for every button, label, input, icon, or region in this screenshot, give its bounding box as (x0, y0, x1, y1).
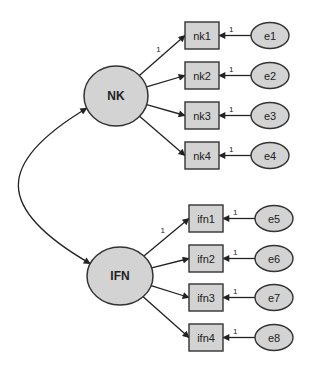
error-path-label-e2: 1 (229, 65, 234, 74)
error-term-label: e3 (264, 110, 276, 122)
error-path-label-e6: 1 (233, 248, 238, 257)
loading-arrow-nk3 (147, 105, 185, 116)
error-term-label: e4 (264, 150, 276, 162)
error-path-label-e5: 1 (233, 208, 238, 217)
error-path-label-e3: 1 (229, 105, 234, 114)
error-term-label: e6 (268, 253, 280, 265)
loading-arrow-ifn1 (144, 219, 189, 257)
observed-variable-label: nk1 (193, 30, 211, 42)
loading-arrow-nk4 (140, 116, 185, 155)
error-term-label: e8 (268, 332, 280, 344)
error-path-label-e1: 1 (229, 25, 234, 34)
observed-variable-label: nk4 (193, 150, 211, 162)
error-term-label: e7 (268, 292, 280, 304)
error-path-label-e7: 1 (233, 287, 238, 296)
nodes-layer: nk1e1nk2e2nk3e3nk4e4ifn1e5ifn2e6ifn3e7if… (84, 22, 293, 351)
observed-variable-label: nk3 (193, 110, 211, 122)
loading-arrow-nk2 (147, 76, 185, 87)
observed-variable-label: nk2 (193, 70, 211, 82)
observed-variable-label: ifn2 (197, 253, 215, 265)
error-term-label: e1 (264, 30, 276, 42)
loading-label-nk1: 1 (156, 45, 161, 54)
loading-arrow-nk1 (139, 36, 185, 76)
error-term-label: e5 (268, 213, 280, 225)
error-term-label: e2 (264, 70, 276, 82)
error-path-label-e4: 1 (229, 145, 234, 154)
loading-label-ifn1: 1 (160, 226, 165, 235)
latent-variable-label: NK (107, 89, 125, 103)
observed-variable-label: ifn3 (197, 292, 215, 304)
loading-arrow-ifn4 (143, 297, 189, 338)
observed-variable-label: ifn4 (197, 332, 215, 344)
covariance-arrow (18, 108, 90, 263)
loading-arrow-ifn3 (151, 286, 189, 298)
error-path-label-e8: 1 (233, 327, 238, 336)
observed-variable-label: ifn1 (197, 213, 215, 225)
latent-variable-label: IFN (110, 269, 129, 283)
loading-arrow-ifn2 (152, 259, 189, 268)
sem-path-diagram: 1111111111 nk1e1nk2e2nk3e3nk4e4ifn1e5ifn… (0, 0, 310, 375)
